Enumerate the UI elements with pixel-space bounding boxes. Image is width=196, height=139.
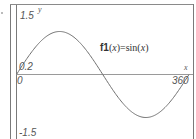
y-axis-name: y <box>38 6 42 14</box>
function-expr-fn: sin <box>126 42 138 53</box>
y-min-label: -1.5 <box>19 128 36 138</box>
x-axis-name: x <box>184 64 188 72</box>
function-label[interactable]: f1(x)=sin(x) <box>100 43 149 53</box>
function-name: f1 <box>100 42 109 53</box>
y-near-zero-label: 0.2 <box>19 62 33 72</box>
x-min-label: 0 <box>17 76 23 86</box>
x-max-label: 360 <box>172 76 189 86</box>
function-arg: x <box>112 42 116 53</box>
y-max-label: 1.5 <box>20 11 34 21</box>
function-expr-arg: x <box>141 42 145 53</box>
